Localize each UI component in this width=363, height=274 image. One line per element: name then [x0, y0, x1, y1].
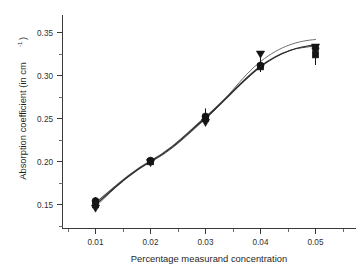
data-point-circle	[202, 113, 209, 120]
x-axis-title: Percentage measurand concentration	[131, 253, 287, 264]
absorption-coefficient-chart: 0.35 0.30 0.25 0.20 0.15 0.01 0.02 0.03 …	[0, 0, 363, 274]
y-axis-tick-labels: 0.35 0.30 0.25 0.20 0.15	[37, 29, 53, 210]
series-square-markers	[92, 52, 318, 208]
data-point-triangle-down	[201, 119, 209, 126]
y-axis-title-tail: )	[17, 37, 28, 40]
x-tick-label: 0.04	[253, 238, 269, 247]
data-point-triangle-down	[91, 205, 99, 212]
error-bars	[96, 50, 316, 210]
x-axis-ticks	[68, 229, 343, 235]
y-tick-label: 0.35	[37, 29, 53, 38]
x-axis-tick-labels: 0.01 0.02 0.03 0.04 0.05	[88, 238, 324, 247]
x-tick-label: 0.05	[308, 238, 324, 247]
y-axis-ticks	[57, 33, 63, 227]
y-axis-title-main: Absorption coefficient (in cm	[17, 62, 28, 180]
data-point-square	[312, 52, 318, 58]
data-point-circle	[257, 62, 264, 69]
x-tick-label: 0.02	[143, 238, 159, 247]
y-tick-label: 0.20	[37, 158, 53, 167]
series-triangle-markers	[91, 44, 319, 212]
y-axis-title-superscript: -1	[16, 41, 23, 47]
y-tick-label: 0.30	[37, 72, 53, 81]
x-tick-label: 0.03	[198, 238, 214, 247]
x-tick-label: 0.01	[88, 238, 104, 247]
chart-figure: 0.35 0.30 0.25 0.20 0.15 0.01 0.02 0.03 …	[0, 0, 363, 274]
data-point-triangle-down	[256, 51, 264, 58]
y-tick-label: 0.25	[37, 115, 53, 124]
y-axis-title: Absorption coefficient (in cm -1 )	[16, 37, 28, 180]
data-point-circle	[92, 198, 99, 205]
y-tick-label: 0.15	[37, 201, 53, 210]
